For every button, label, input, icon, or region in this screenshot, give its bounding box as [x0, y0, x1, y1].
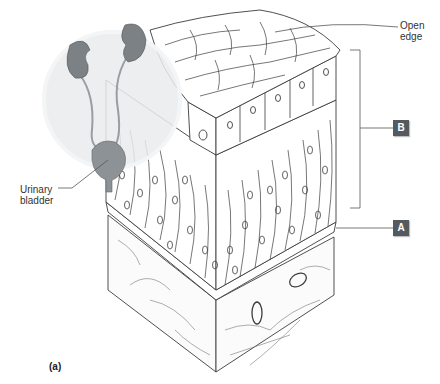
open-edge-label: Open edge [400, 20, 424, 42]
epithelium-diagram [0, 0, 440, 384]
urinary-bladder-label: Urinary bladder [20, 184, 53, 206]
panel-label: (a) [49, 361, 61, 372]
label-tag-a: A [393, 220, 409, 236]
label-tag-b: B [393, 120, 409, 136]
